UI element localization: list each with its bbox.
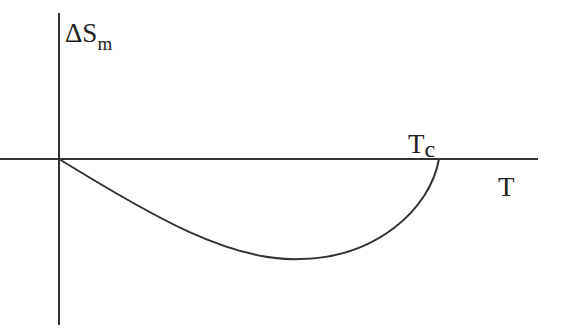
y-axis-label: ΔSm: [65, 20, 112, 47]
entropy-curve: [59, 159, 439, 259]
y-axis-label-sub: m: [97, 33, 112, 54]
y-axis-label-main: ΔS: [65, 18, 97, 48]
tc-label-sub: c: [425, 136, 436, 162]
tc-label-main: T: [408, 129, 425, 159]
critical-temperature-label: Tc: [408, 131, 435, 158]
x-axis-label-text: T: [498, 172, 515, 202]
diagram-canvas: [0, 0, 562, 330]
x-axis-label: T: [498, 174, 515, 201]
